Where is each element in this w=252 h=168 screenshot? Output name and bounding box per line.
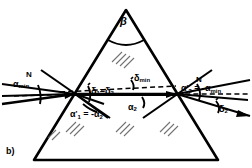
delta-min-sub: min [139,77,150,83]
left-normal-label: N [26,71,32,79]
d2-sub: 2 [224,108,227,114]
a1p-rhs-sub: 2 [100,114,103,120]
a1p-sub: 1 [77,114,80,120]
a2p-sub: 2 [188,88,191,94]
prism-minimum-deviation-figure: β N αmin δ1=δ2 δmin α'1 = -α2 α2 N α'2 =… [0,0,252,168]
deviation-2-label: δ2 [219,105,228,115]
internal-angle-2-label: α2 [128,103,137,113]
apex-angle-label: β [120,16,127,27]
a2p-eq: = - [194,83,205,93]
internal-angle-1-prime-label: α'1 = -α2 [70,110,103,121]
a1p-eq: = - [83,109,94,119]
panel-label: b) [6,147,15,156]
delta2-sub: 2 [111,90,114,96]
deviation-min-label: δmin [134,74,150,84]
a2p-rhs-sub: min [211,88,222,94]
incidence-angle-min-label: αmin [13,80,29,90]
deviation-equality-label: δ1=δ2 [91,87,114,97]
alpha-min-sub: min [19,83,30,89]
exit-angle-2-prime-label: α'2 = -αmin [181,84,221,95]
a2-sub: 2 [134,106,137,112]
